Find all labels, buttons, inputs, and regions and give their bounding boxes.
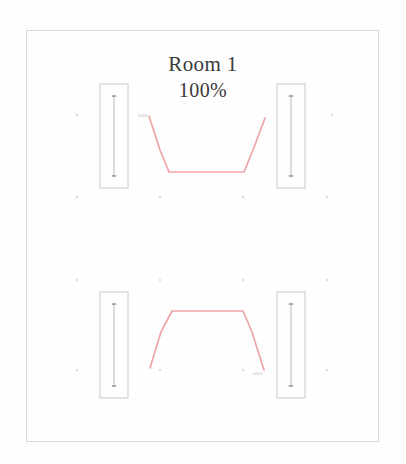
wall-panel-group xyxy=(100,84,305,398)
grid-dot xyxy=(242,196,244,198)
wall-panel-upper-right xyxy=(277,84,305,188)
plan-graphics: 40004000 xyxy=(0,0,406,464)
grid-dot xyxy=(76,114,78,116)
duct-upper-duct xyxy=(149,116,265,172)
grid-dot xyxy=(326,369,328,371)
upper-duct-tag: 4000 xyxy=(138,113,148,118)
lower-duct-tag: 4000 xyxy=(253,371,263,376)
wall-panel-lower-left xyxy=(100,292,128,398)
floor-plan-canvas: Room 1 100% 40004000 xyxy=(0,0,406,464)
wall-panel-upper-left xyxy=(100,84,128,188)
grid-dot xyxy=(242,279,244,281)
duct-lower-duct xyxy=(150,311,264,370)
grid-dot xyxy=(159,279,161,281)
grid-dot xyxy=(76,196,78,198)
grid-dot xyxy=(242,369,244,371)
grid-dot xyxy=(159,196,161,198)
micro-label-group: 40004000 xyxy=(138,113,263,376)
wall-panel-lower-right xyxy=(277,292,305,398)
duct-polyline-group xyxy=(149,116,265,370)
grid-dot xyxy=(76,369,78,371)
grid-dot xyxy=(76,279,78,281)
grid-dot xyxy=(159,369,161,371)
grid-dot xyxy=(326,196,328,198)
grid-dot xyxy=(326,279,328,281)
grid-dot xyxy=(331,114,333,116)
